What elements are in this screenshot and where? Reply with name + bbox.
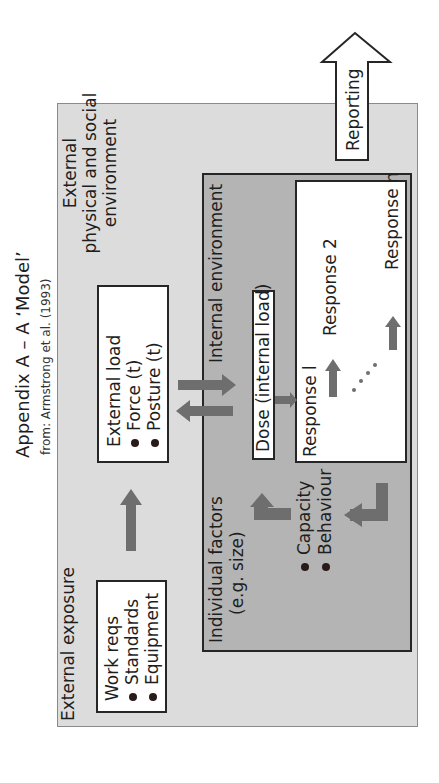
arrow-response1-to-2-icon xyxy=(325,359,341,397)
arrow-internal-to-load-icon xyxy=(176,400,233,422)
ellipsis-dots-icon xyxy=(352,363,377,392)
arrow-response-to-behaviour-icon xyxy=(344,483,388,527)
reporting-label: Reporting xyxy=(343,68,363,151)
arrow-capacity-to-dose-icon xyxy=(250,493,291,520)
arrow-load-to-internal-icon xyxy=(178,374,236,396)
arrow-work-to-load-icon xyxy=(120,489,142,551)
arrow-to-response-n-icon xyxy=(385,316,401,350)
arrow-dose-to-response-icon xyxy=(275,392,297,408)
arrows-layer xyxy=(0,0,439,783)
diagram-stage: Appendix A – A ‘Model’ from: Armstrong e… xyxy=(0,0,439,783)
